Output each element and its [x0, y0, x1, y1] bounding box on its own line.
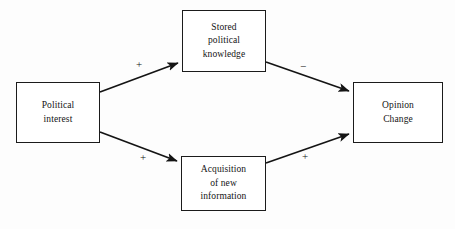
node-opinion-change-label: Opinion Change: [382, 99, 414, 126]
node-political-interest-label: Political interest: [42, 99, 75, 126]
edge-sign-stored-knowledge-to-opinion-change: −: [300, 61, 306, 72]
edge-stored-knowledge-to-opinion-change: [266, 62, 349, 91]
edge-sign-acquisition-to-opinion-change: +: [302, 151, 308, 162]
node-stored-knowledge[interactable]: Stored political knowledge: [182, 10, 266, 72]
node-acquisition-label: Acquisition of new information: [201, 163, 247, 203]
node-stored-knowledge-label: Stored political knowledge: [203, 21, 246, 61]
edge-sign-political-interest-to-acquisition: +: [140, 152, 146, 163]
diagram-canvas: Political interest Stored political know…: [0, 0, 455, 229]
edge-sign-political-interest-to-stored-knowledge: +: [136, 59, 142, 70]
edge-political-interest-to-acquisition: [100, 132, 177, 161]
node-acquisition-of-new-information[interactable]: Acquisition of new information: [181, 156, 266, 211]
node-political-interest[interactable]: Political interest: [16, 82, 100, 143]
node-opinion-change[interactable]: Opinion Change: [353, 82, 443, 143]
